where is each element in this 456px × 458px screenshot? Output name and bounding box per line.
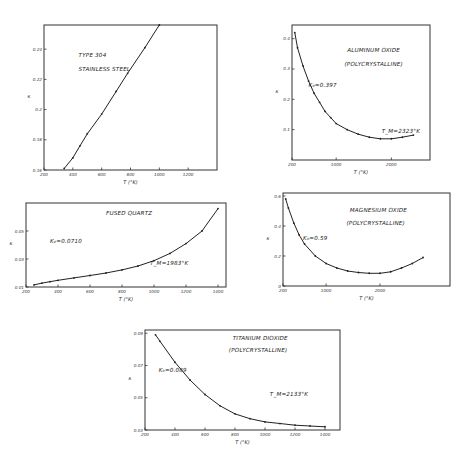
data-point	[304, 243, 306, 245]
data-point	[325, 263, 327, 265]
data-point	[101, 113, 103, 115]
y-tick-label: 0.05	[15, 229, 25, 234]
x-tick-label: 800	[118, 289, 126, 294]
y-tick-label: 0.24	[33, 47, 43, 52]
chart-annotation: (POLYCRYSTALLINE)	[344, 61, 403, 67]
data-point	[319, 101, 321, 103]
x-tick-label: 600	[201, 432, 209, 437]
data-point	[294, 32, 296, 34]
x-tick-label: 800	[127, 172, 135, 177]
x-axis-label: T (°K)	[119, 296, 133, 302]
data-point	[390, 271, 392, 273]
y-tick-label: 0.03	[15, 257, 25, 262]
y-tick-label: 0.07	[134, 363, 144, 368]
x-axis-label: T (°K)	[235, 439, 249, 445]
y-tick-label: 0.4	[274, 224, 281, 229]
data-curve	[34, 209, 218, 285]
data-point	[297, 47, 299, 49]
data-point	[330, 117, 332, 119]
data-point	[413, 134, 415, 136]
y-axis-label: κ	[10, 240, 13, 246]
data-point	[89, 275, 91, 277]
y-tick-label: 0	[278, 284, 281, 289]
x-tick-label: 800	[231, 432, 239, 437]
y-axis-label: κ	[28, 93, 31, 99]
x-tick-label: 200	[141, 432, 149, 437]
x-axis-label: T (°K)	[123, 179, 137, 185]
x-tick-label: 1000	[321, 288, 332, 293]
chart-annotation: FUSED QUARTZ	[106, 210, 152, 216]
data-point	[302, 65, 304, 67]
x-tick-label: 1200	[183, 172, 194, 177]
x-tick-label: 1000	[154, 172, 165, 177]
x-axis-label: T (°K)	[354, 169, 368, 175]
data-point	[285, 198, 287, 200]
y-tick-label: 0.03	[134, 428, 144, 433]
y-axis-label: κ	[276, 88, 279, 94]
chart-annotation: K₀=0.397	[309, 82, 337, 88]
data-point	[144, 47, 146, 49]
data-point	[115, 91, 117, 93]
chart-annotation: STAINLESS STEEL	[79, 66, 131, 72]
data-point	[390, 138, 392, 140]
chart-annotation: K₀=0.089	[159, 367, 187, 373]
y-tick-label: 0.01	[15, 285, 25, 290]
data-point	[174, 361, 176, 363]
data-point	[335, 123, 337, 125]
data-point	[346, 129, 348, 131]
y-tick-label: 0.1	[283, 127, 290, 132]
data-point	[105, 272, 107, 274]
data-point	[402, 136, 404, 138]
y-axis-label: κ	[267, 235, 270, 241]
data-point	[336, 267, 338, 269]
data-point	[357, 133, 359, 135]
x-tick-label: 1000	[331, 162, 342, 167]
data-point	[294, 424, 296, 426]
data-point	[422, 257, 424, 259]
x-tick-label: 200	[22, 289, 30, 294]
data-curve	[64, 25, 159, 169]
y-axis-label: κ	[129, 375, 132, 381]
data-point	[264, 421, 266, 423]
x-tick-label: 2000	[386, 162, 397, 167]
data-point	[324, 111, 326, 113]
x-tick-label: 2000	[375, 288, 386, 293]
data-point	[234, 413, 236, 415]
chart-annotation: K₀=0.0710	[50, 238, 82, 244]
chart-annotation: T_M=2323°K	[382, 128, 422, 135]
data-point	[249, 418, 251, 420]
y-tick-label: 0.2	[35, 107, 42, 112]
plot-frame	[44, 25, 217, 170]
y-tick-label: 0.22	[33, 77, 43, 82]
data-point	[324, 426, 326, 428]
data-point	[219, 405, 221, 407]
y-tick-label: 0.05	[134, 395, 144, 400]
data-point	[411, 263, 413, 265]
x-tick-label: 200	[279, 288, 287, 293]
data-point	[158, 24, 160, 26]
data-point	[293, 222, 295, 224]
y-tick-label: 0.2	[274, 254, 281, 259]
y-tick-label: 0.3	[283, 66, 290, 71]
chart-annotation: K₀=0.59	[303, 235, 328, 241]
data-point	[217, 208, 219, 210]
data-point	[137, 265, 139, 267]
data-point	[127, 72, 129, 74]
data-point	[379, 272, 381, 274]
x-tick-label: 400	[54, 289, 62, 294]
data-point	[298, 234, 300, 236]
data-point	[63, 168, 65, 170]
x-tick-label: 1000	[260, 432, 271, 437]
chart-annotation: T_M=2133°K	[270, 391, 310, 398]
figure-canvas: 200400600800100012000.160.180.20.220.24T…	[0, 0, 456, 458]
data-point	[159, 340, 161, 342]
data-point	[155, 334, 157, 336]
data-point	[49, 281, 51, 283]
x-axis-label: T (°K)	[359, 295, 373, 301]
data-point	[121, 269, 123, 271]
x-tick-label: 400	[69, 172, 77, 177]
x-tick-label: 1200	[290, 432, 301, 437]
data-point	[309, 425, 311, 427]
y-tick-label: 0.2	[283, 97, 290, 102]
data-point	[189, 379, 191, 381]
